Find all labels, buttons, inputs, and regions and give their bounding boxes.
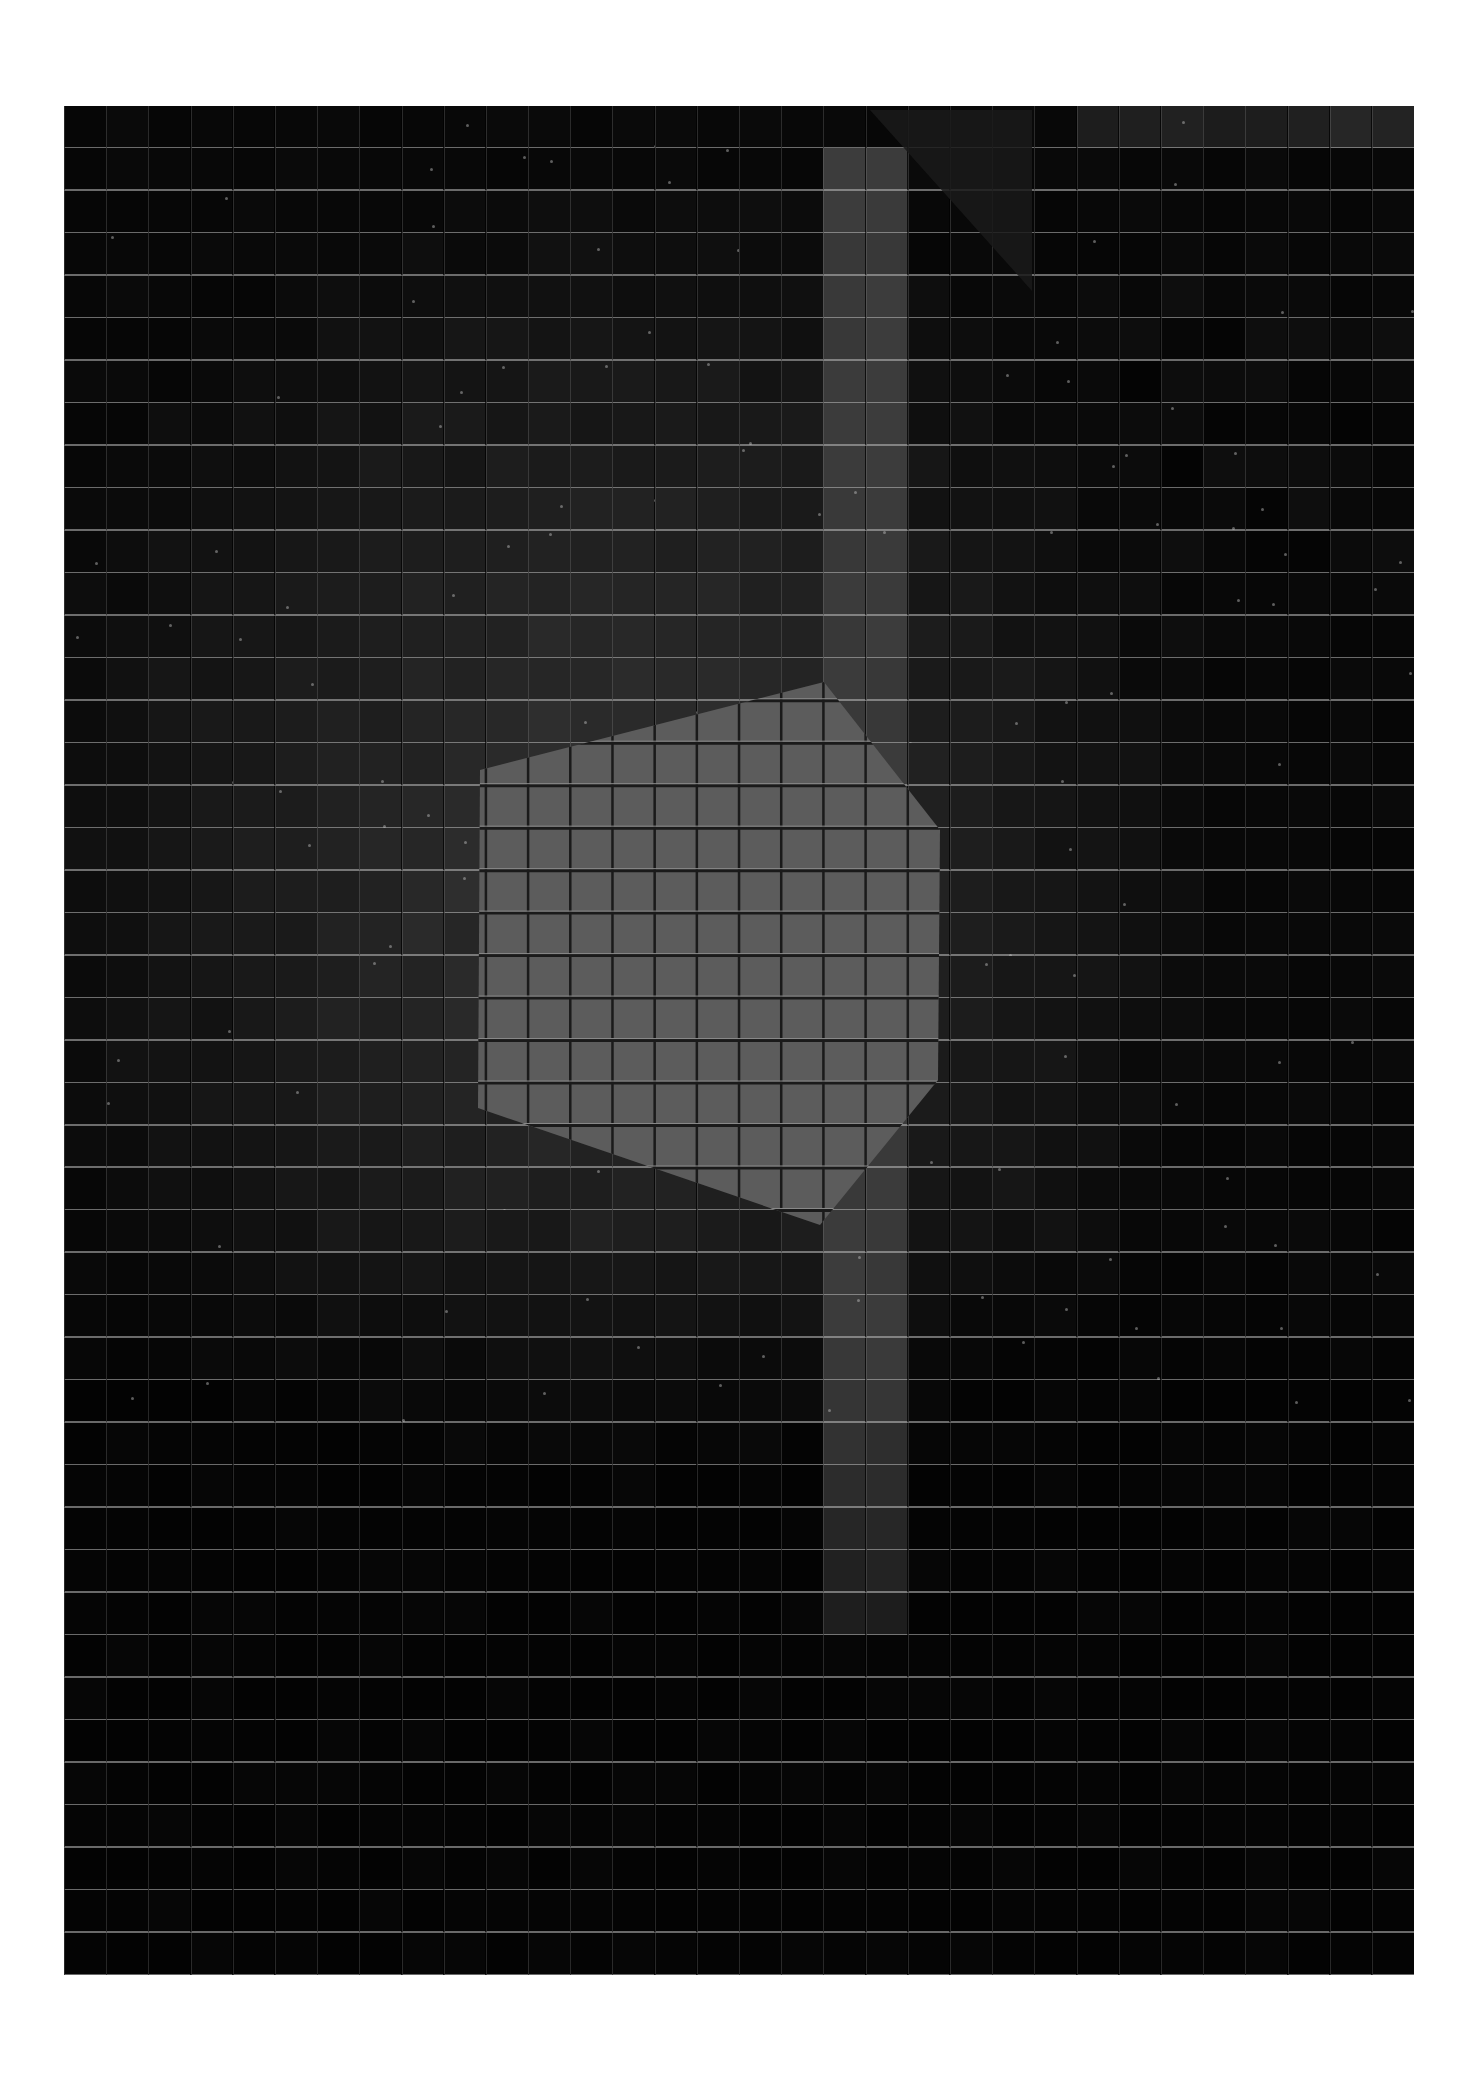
grid-tile: [992, 148, 1035, 191]
grid-tile: [1288, 1635, 1331, 1678]
grid-tile: [1372, 531, 1414, 574]
grid-tile: [823, 1593, 866, 1636]
grid-tile: [191, 616, 234, 659]
grid-tile: [1330, 1210, 1373, 1253]
grid-tile: [570, 701, 613, 744]
grid-tile: [655, 148, 698, 191]
grid-tile: [444, 1465, 487, 1508]
grid-tile: [528, 531, 571, 574]
grid-tile: [1161, 913, 1204, 956]
grid-tile: [781, 1805, 824, 1848]
grid-tile: [402, 1253, 445, 1296]
grid-tile: [402, 743, 445, 786]
grid-tile: [1034, 1593, 1077, 1636]
grid-tile: [950, 191, 993, 234]
grid-tile: [233, 786, 276, 829]
grid-tile: [486, 913, 529, 956]
grid-tile: [908, 148, 951, 191]
grid-tile: [866, 1465, 909, 1508]
grid-tile: [444, 488, 487, 531]
grid-tile: [1288, 1041, 1331, 1084]
dust-speck: [1261, 508, 1264, 511]
grid-tile: [1288, 1593, 1331, 1636]
dust-speck: [762, 1355, 765, 1358]
grid-tile: [1161, 446, 1204, 489]
grid-tile: [233, 318, 276, 361]
grid-tile: [444, 403, 487, 446]
grid-tile: [486, 658, 529, 701]
grid-tile: [1077, 1805, 1120, 1848]
grid-tile: [1372, 1635, 1414, 1678]
grid-tile: [612, 531, 655, 574]
grid-tile: [823, 1465, 866, 1508]
grid-tile: [64, 1338, 107, 1381]
grid-tile: [950, 1848, 993, 1891]
grid-tile: [739, 1338, 782, 1381]
grid-tile: [1330, 1423, 1373, 1466]
dust-speck: [998, 1168, 1001, 1171]
grid-tile: [444, 658, 487, 701]
grid-tile: [1161, 616, 1204, 659]
grid-tile: [655, 1550, 698, 1593]
grid-tile: [528, 191, 571, 234]
grid-tile: [908, 1635, 951, 1678]
grid-tile: [697, 403, 740, 446]
grid-tile: [697, 743, 740, 786]
grid-tile: [148, 573, 191, 616]
grid-tile: [359, 616, 402, 659]
grid-tile: [1245, 1678, 1288, 1721]
grid-tile: [1119, 1848, 1162, 1891]
grid-tile: [950, 446, 993, 489]
grid-tile: [1372, 871, 1414, 914]
grid-tile: [950, 871, 993, 914]
grid-tile: [1288, 1933, 1331, 1975]
grid-tile: [402, 913, 445, 956]
grid-tile: [950, 488, 993, 531]
grid-tile: [1330, 1465, 1373, 1508]
grid-tile: [1077, 191, 1120, 234]
dust-speck: [1069, 848, 1072, 851]
grid-tile: [739, 1593, 782, 1636]
grid-tile: [1245, 743, 1288, 786]
grid-tile: [655, 531, 698, 574]
grid-tile: [992, 658, 1035, 701]
grid-tile: [866, 1933, 909, 1975]
grid-tile: [1161, 191, 1204, 234]
grid-tile: [275, 1126, 318, 1169]
grid-tile: [1119, 446, 1162, 489]
grid-tile: [486, 1126, 529, 1169]
grid-tile: [612, 701, 655, 744]
grid-tile: [992, 531, 1035, 574]
grid-tile: [1288, 828, 1331, 871]
grid-tile: [697, 913, 740, 956]
grid-tile: [233, 1550, 276, 1593]
grid-tile: [612, 148, 655, 191]
grid-tile: [1161, 318, 1204, 361]
grid-tile: [823, 276, 866, 319]
grid-tile: [275, 1210, 318, 1253]
grid-tile: [1372, 1508, 1414, 1551]
grid-tile: [866, 106, 909, 149]
grid-tile: [1372, 786, 1414, 829]
dust-speck: [981, 1296, 984, 1299]
grid-tile: [739, 1168, 782, 1211]
grid-tile: [191, 276, 234, 319]
grid-tile: [697, 1678, 740, 1721]
grid-tile: [908, 828, 951, 871]
grid-tile: [359, 701, 402, 744]
grid-tile: [950, 658, 993, 701]
grid-tile: [781, 786, 824, 829]
grid-tile: [148, 1933, 191, 1975]
grid-tile: [781, 233, 824, 276]
grid-tile: [317, 786, 360, 829]
grid-tile: [992, 701, 1035, 744]
dust-speck: [719, 1384, 722, 1387]
grid-tile: [528, 913, 571, 956]
grid-tile: [444, 1210, 487, 1253]
grid-tile: [866, 446, 909, 489]
grid-tile: [908, 361, 951, 404]
grid-tile: [191, 318, 234, 361]
grid-tile: [1161, 786, 1204, 829]
grid-tile: [148, 446, 191, 489]
grid-tile: [823, 1295, 866, 1338]
